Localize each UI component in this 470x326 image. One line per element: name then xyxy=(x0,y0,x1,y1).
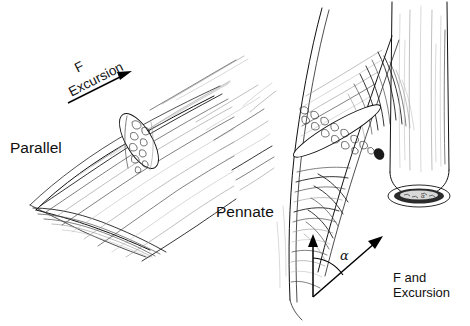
fiber-axis-vector xyxy=(313,236,383,297)
pennate-force-excursion-label: F and Excursion xyxy=(393,270,450,300)
pennate-muscle-belly xyxy=(243,8,414,320)
muscle-architecture-figure: Parallel Pennate F Excursion F and Excur… xyxy=(0,0,470,326)
pennate-tendon-cylinder xyxy=(388,2,450,207)
parallel-label: Parallel xyxy=(10,139,62,157)
pennate-label: Pennate xyxy=(216,203,274,221)
pennation-angle-label-small: α xyxy=(421,192,425,199)
parallel-cut-surface xyxy=(112,108,166,175)
pennation-angle-label: α xyxy=(340,248,349,263)
tendon-axis-vector xyxy=(308,234,318,297)
